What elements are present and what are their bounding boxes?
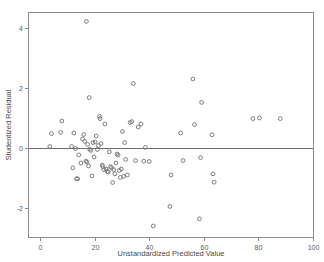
data-point (123, 141, 127, 145)
data-point (92, 155, 96, 159)
data-point (147, 160, 151, 164)
data-point (70, 145, 74, 149)
data-point (142, 159, 146, 163)
data-point (85, 160, 89, 164)
scatterplot-canvas: 020406080100 -2024 Unstandardized Predic… (0, 0, 324, 262)
data-point (86, 143, 90, 147)
data-point (139, 122, 143, 126)
data-point (79, 161, 83, 165)
data-point-group (48, 20, 282, 228)
data-point (124, 158, 128, 162)
data-point (81, 137, 85, 141)
x-axis-title: Unstandardized Predicted Value (117, 249, 224, 258)
data-point (85, 20, 89, 24)
data-point (71, 166, 75, 170)
y-tick-label-0: 0 (19, 145, 23, 152)
data-point (198, 217, 202, 221)
data-point (111, 181, 115, 185)
scatterplot-chart: 020406080100 -2024 Unstandardized Predic… (0, 0, 324, 262)
y-tick-label--2: -2 (17, 205, 23, 212)
y-tick-label-4: 4 (19, 25, 23, 32)
x-tick-label-20: 20 (92, 244, 100, 251)
x-tick-label-100: 100 (308, 244, 320, 251)
data-point (134, 159, 138, 163)
data-point (278, 117, 282, 121)
data-point (131, 82, 135, 86)
data-point (77, 153, 81, 157)
data-point (107, 150, 111, 154)
y-axis-tick-labels: -2024 (17, 25, 23, 212)
data-point (200, 101, 204, 105)
y-axis-title: Studentized Residual (4, 89, 13, 160)
data-point (168, 205, 172, 209)
data-point (114, 161, 118, 165)
data-point (210, 133, 214, 137)
data-point (87, 96, 91, 100)
data-point (211, 172, 215, 176)
x-tick-label-80: 80 (255, 244, 263, 251)
data-point (59, 131, 63, 135)
data-point (82, 133, 86, 137)
data-point (193, 123, 197, 127)
x-tick-label-0: 0 (39, 244, 43, 251)
data-point (181, 159, 185, 163)
data-point (212, 180, 216, 184)
y-tick-label-2: 2 (19, 85, 23, 92)
data-point (121, 130, 125, 134)
data-point (99, 142, 103, 146)
data-point (50, 132, 54, 136)
data-point (94, 134, 98, 138)
data-point (60, 119, 64, 123)
plot-frame (29, 13, 314, 238)
data-point (103, 122, 107, 126)
data-point (151, 224, 155, 228)
data-point (72, 131, 76, 135)
data-point (87, 164, 91, 168)
data-point (90, 174, 94, 178)
data-point (251, 117, 255, 121)
data-point (48, 145, 52, 149)
data-point (191, 77, 195, 81)
data-point (125, 173, 129, 177)
data-point (258, 116, 262, 120)
data-point (179, 131, 183, 135)
data-point (113, 172, 117, 176)
data-point (169, 173, 173, 177)
data-point (199, 156, 203, 160)
